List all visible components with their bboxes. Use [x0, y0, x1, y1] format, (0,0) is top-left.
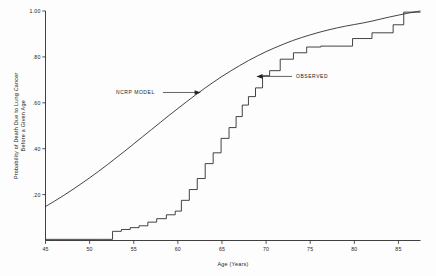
ncrp-model-annotation-label: NCRP MODEL	[116, 89, 155, 95]
figure-container: .20.40.60.801.00 455055606570758085 Age …	[0, 0, 436, 276]
y-tick-label: .40	[33, 146, 41, 152]
x-tick-label: 45	[42, 246, 48, 252]
observed-annotation-label: OBSERVED	[296, 73, 328, 79]
y-axis-title-line1: Probability of Death Due to Lung Cancer	[13, 72, 19, 179]
x-tick-label: 50	[87, 246, 93, 252]
observed-step-curve	[46, 12, 421, 239]
annotation-observed: OBSERVED	[256, 73, 328, 79]
x-tick-label: 60	[175, 246, 181, 252]
observed-arrow-head-icon	[256, 74, 262, 79]
x-tick-label: 70	[263, 246, 269, 252]
x-tick-label: 80	[351, 246, 357, 252]
y-tick-label: .20	[33, 192, 41, 198]
x-tick-label: 65	[219, 246, 225, 252]
x-axis-tick-group	[46, 241, 399, 244]
x-tick-label: 85	[395, 246, 401, 252]
y-axis-tick-group	[42, 11, 45, 195]
x-axis-title: Age (Years)	[217, 261, 248, 267]
x-axis-tick-labels: 455055606570758085	[42, 246, 401, 252]
y-tick-label: 1.00	[30, 8, 41, 14]
chart-canvas: .20.40.60.801.00 455055606570758085 Age …	[0, 0, 436, 276]
ncrp-model-arrow-head-icon	[195, 90, 201, 95]
y-axis-title-line2: Before a Given Age	[20, 100, 26, 151]
y-axis-tick-labels: .20.40.60.801.00	[30, 8, 41, 198]
ncrp-model-curve	[46, 11, 421, 207]
annotation-ncrp-model: NCRP MODEL	[116, 89, 201, 95]
x-tick-label: 55	[131, 246, 137, 252]
y-tick-label: .80	[33, 54, 41, 60]
x-tick-label: 75	[307, 246, 313, 252]
y-tick-label: .60	[33, 100, 41, 106]
